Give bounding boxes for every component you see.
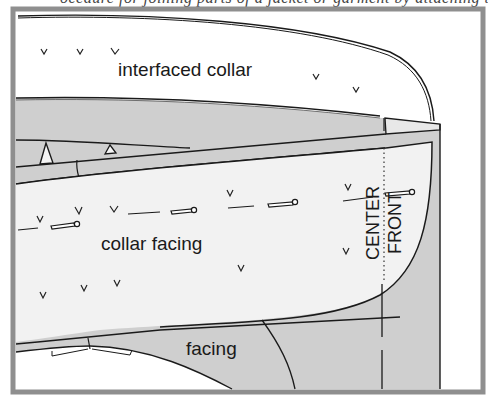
label-collar-facing: collar facing — [101, 233, 202, 254]
pin-head-2 — [191, 207, 196, 212]
label-front: FRONT — [385, 192, 405, 254]
label-interfaced-collar: interfaced collar — [118, 59, 253, 80]
pin-head-4 — [409, 189, 414, 194]
label-facing: facing — [186, 338, 237, 359]
label-center: CENTER — [363, 186, 383, 260]
pin-head-1 — [74, 221, 79, 226]
pin-head-3 — [292, 199, 297, 204]
sewing-diagram: interfaced collar collar facing facing C… — [0, 0, 488, 399]
